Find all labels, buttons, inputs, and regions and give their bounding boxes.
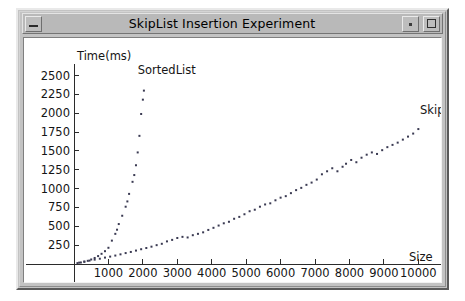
data-point xyxy=(114,233,116,235)
x-axis-tick-label: 5000 xyxy=(232,266,261,280)
data-point xyxy=(361,157,363,159)
data-point xyxy=(132,181,134,183)
series-sortedlist xyxy=(76,90,144,264)
data-point xyxy=(140,248,142,250)
data-point xyxy=(116,229,118,231)
data-point xyxy=(326,170,328,172)
data-point xyxy=(143,90,145,92)
x-axis-tick-label: 4000 xyxy=(197,266,226,280)
x-axis-tick-label: 9000 xyxy=(369,266,398,280)
data-point xyxy=(83,261,85,263)
data-point xyxy=(150,246,152,248)
data-point xyxy=(386,146,388,148)
data-point xyxy=(104,257,106,259)
data-point xyxy=(128,193,130,195)
data-point xyxy=(212,227,214,229)
data-point xyxy=(101,253,103,255)
data-point xyxy=(407,136,409,138)
y-axis-tick-label: 1250 xyxy=(41,163,70,177)
data-point xyxy=(295,189,297,191)
application-window: SkipList Insertion Experiment 2505007501… xyxy=(16,8,449,290)
minimize-button[interactable] xyxy=(25,16,42,32)
data-point xyxy=(192,234,194,236)
y-axis-tick-label: 1750 xyxy=(41,125,70,139)
data-point xyxy=(202,231,204,233)
data-point xyxy=(130,251,132,253)
data-point xyxy=(121,215,123,217)
y-axis-tick-label: 750 xyxy=(48,200,70,214)
x-axis-tick-label: 3000 xyxy=(163,266,192,280)
y-axis-tick-label: 2000 xyxy=(41,106,70,120)
data-point xyxy=(371,151,373,153)
data-point xyxy=(249,210,251,212)
data-point xyxy=(78,262,80,264)
data-point xyxy=(316,179,318,181)
data-point xyxy=(176,237,178,239)
y-axis-tick-label: 2500 xyxy=(41,69,70,83)
data-point xyxy=(181,236,183,238)
data-point xyxy=(107,247,109,249)
data-point xyxy=(109,256,111,258)
y-axis-tick-label: 1500 xyxy=(41,144,70,158)
data-point xyxy=(233,218,235,220)
data-point xyxy=(76,262,78,264)
data-point xyxy=(300,187,302,189)
data-point xyxy=(381,149,383,151)
data-point xyxy=(366,154,368,156)
data-point xyxy=(138,135,140,137)
y-axis-tick-label: 250 xyxy=(48,238,70,252)
data-point xyxy=(376,153,378,155)
series-skip xyxy=(78,128,419,264)
data-point xyxy=(305,184,307,186)
maximize-button[interactable] xyxy=(423,16,440,32)
data-point xyxy=(412,133,414,135)
title-bar[interactable]: SkipList Insertion Experiment xyxy=(22,13,443,34)
restore-button[interactable] xyxy=(402,16,419,32)
data-point xyxy=(392,144,394,146)
data-point xyxy=(142,99,144,101)
data-point xyxy=(114,255,116,257)
data-point xyxy=(119,253,121,255)
data-point xyxy=(118,223,120,225)
data-point xyxy=(140,113,142,115)
data-point xyxy=(197,233,199,235)
data-point xyxy=(111,240,113,242)
data-point xyxy=(355,161,357,163)
data-point xyxy=(417,128,419,130)
data-point xyxy=(89,260,91,262)
x-axis-tick-label: 10000 xyxy=(400,266,437,280)
data-point xyxy=(345,163,347,165)
data-point xyxy=(125,206,127,208)
x-axis-tick-label: 6000 xyxy=(266,266,295,280)
data-point xyxy=(104,250,106,252)
data-point xyxy=(187,236,189,238)
y-axis-title: Time(ms) xyxy=(76,49,131,63)
data-point xyxy=(259,206,261,208)
data-point xyxy=(342,166,344,168)
scatter-plot: 2505007501000125015001750200022502500100… xyxy=(24,38,442,283)
data-point xyxy=(285,195,287,197)
x-axis-title: Size xyxy=(409,250,433,264)
data-point xyxy=(321,173,323,175)
data-point xyxy=(125,252,127,254)
data-point xyxy=(207,229,209,231)
data-point xyxy=(126,200,128,202)
window-title: SkipList Insertion Experiment xyxy=(44,14,400,33)
data-point xyxy=(145,247,147,249)
data-point xyxy=(166,240,168,242)
plot-panel: 2505007501000125015001750200022502500100… xyxy=(23,37,442,283)
x-axis-tick-label: 8000 xyxy=(335,266,364,280)
series-label-sortedlist: SortedList xyxy=(138,63,197,77)
y-axis-tick-label: 2250 xyxy=(41,87,70,101)
data-point xyxy=(223,222,225,224)
data-point xyxy=(336,170,338,172)
data-point xyxy=(171,239,173,241)
data-point xyxy=(243,213,245,215)
data-point xyxy=(254,209,256,211)
data-point xyxy=(218,225,220,227)
data-point xyxy=(156,244,158,246)
y-axis-tick-label: 1000 xyxy=(41,182,70,196)
data-point xyxy=(350,159,352,161)
data-point xyxy=(135,164,137,166)
data-point xyxy=(274,199,276,201)
